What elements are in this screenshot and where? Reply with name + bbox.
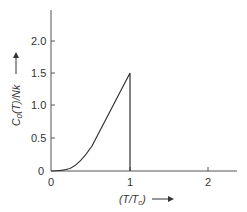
x-tick-label-0: 0 xyxy=(48,176,54,188)
x-axis-label: (T/Tc) xyxy=(119,193,174,207)
y-tick-label-2.0: 2.0 xyxy=(31,35,46,47)
y-tick-label-0.5: 0.5 xyxy=(31,132,46,144)
y-axis-label: C0(T)/Nk xyxy=(10,52,24,126)
data-curve xyxy=(51,73,130,171)
x-ticks xyxy=(130,167,208,171)
y-tick-label-0: 0 xyxy=(38,165,44,177)
y-tick-label-1.5: 1.5 xyxy=(31,67,46,79)
svg-text:(T/Tc): (T/Tc) xyxy=(119,193,146,207)
x-arrowhead-icon xyxy=(168,196,174,202)
y-ticks xyxy=(51,41,55,138)
y-tick-label-1.0: 1.0 xyxy=(31,99,46,111)
chart-canvas: 0 0.5 1.0 1.5 2.0 0 1 2 (T/Tc) C0(T)/Nk xyxy=(0,0,247,212)
x-tick-label-1: 1 xyxy=(127,176,133,188)
svg-text:C0(T)/Nk: C0(T)/Nk xyxy=(10,84,24,126)
x-tick-label-2: 2 xyxy=(205,176,211,188)
y-arrowhead-icon xyxy=(13,52,19,58)
